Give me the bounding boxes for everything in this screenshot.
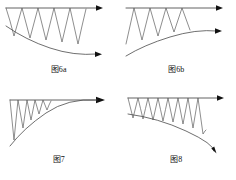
figure-sheet: 图6a 图6b 图7 — [0, 0, 235, 179]
rising-envelope-path-fig7 — [10, 99, 97, 145]
caption-fig7: 图7 — [53, 155, 65, 165]
upper-arrow-head-fig6b — [216, 5, 223, 11]
panel-fig7: 图7 — [0, 90, 118, 180]
plot-fig8 — [118, 90, 235, 154]
caption-fig6b: 图6b — [168, 65, 185, 75]
caption-fig8: 图8 — [170, 155, 182, 165]
lower-arrow-head-fig6b — [215, 28, 222, 34]
panel-fig6a: 图6a — [0, 0, 118, 90]
plot-fig6a — [0, 0, 117, 64]
caption-fig6a: 图6a — [51, 65, 67, 75]
plot-fig6b — [118, 0, 235, 64]
lower-arrow-head-fig6a — [95, 51, 102, 57]
panel-fig8: 图8 — [118, 90, 236, 180]
oscillation-path-fig6a — [6, 8, 86, 44]
lower-envelope-path-fig6a — [6, 26, 97, 54]
lower-envelope-path-fig6b — [126, 31, 217, 56]
lower-arrow-head-fig8 — [211, 146, 216, 153]
upper-arrow-head-fig8 — [217, 95, 224, 101]
damped-oscillation-path-fig7 — [10, 100, 51, 140]
panel-fig6b: 图6b — [118, 0, 236, 90]
oscillation-path-fig6b — [126, 8, 190, 44]
panel-grid: 图6a 图6b 图7 — [0, 0, 235, 179]
upper-arrow-head-fig6a — [96, 5, 103, 11]
plot-fig7 — [0, 90, 117, 154]
